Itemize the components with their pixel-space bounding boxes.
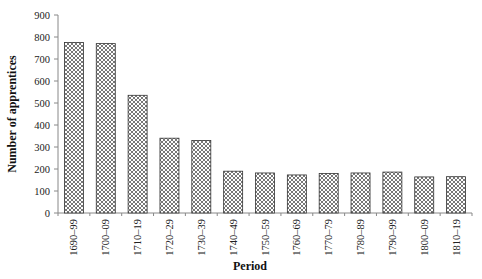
bar-chart: Number of apprentices 010020030040050060… xyxy=(0,0,482,279)
bar-1730–39 xyxy=(192,140,211,213)
x-tick-label: 1690–99 xyxy=(68,219,79,256)
x-axis-title: Period xyxy=(233,259,267,273)
bar-1770–79 xyxy=(319,173,338,213)
x-tick-label: 1700–09 xyxy=(100,219,111,256)
x-tick-label: 1740–49 xyxy=(228,219,239,256)
x-tick-label: 1720–29 xyxy=(164,219,175,256)
x-tick-label: 1790–99 xyxy=(387,219,398,256)
bar-1780–89 xyxy=(351,173,370,213)
bar-1710–19 xyxy=(128,95,147,213)
bar-1810–19 xyxy=(447,177,466,213)
bar-1760–69 xyxy=(287,175,306,213)
x-tick-label: 1780–89 xyxy=(355,219,366,256)
bar-1720–29 xyxy=(160,138,179,213)
y-tick-label: 200 xyxy=(34,164,50,175)
y-tick-label: 900 xyxy=(34,10,50,21)
x-tick-label: 1730–39 xyxy=(196,219,207,256)
bar-1700–09 xyxy=(96,44,115,213)
y-tick-label: 300 xyxy=(34,142,50,153)
x-tick-label: 1760–69 xyxy=(291,219,302,256)
y-tick-label: 600 xyxy=(34,76,50,87)
bar-1740–49 xyxy=(224,171,243,213)
x-tick-label: 1750–59 xyxy=(260,219,271,256)
y-axis-title: Number of apprentices xyxy=(5,55,19,173)
bar-1690–99 xyxy=(64,43,83,214)
bar-1790–99 xyxy=(383,172,402,213)
y-tick-label: 800 xyxy=(34,32,50,43)
y-tick-label: 400 xyxy=(34,120,50,131)
y-axis-title-group: Number of apprentices xyxy=(5,55,19,173)
y-tick-label: 700 xyxy=(34,54,50,65)
x-tick-label: 1810–19 xyxy=(451,219,462,256)
y-tick-label: 500 xyxy=(34,98,50,109)
bar-1750–59 xyxy=(256,173,275,213)
y-tick-label: 100 xyxy=(34,186,50,197)
bar-1800–09 xyxy=(415,177,434,213)
x-tick-label: 1800–09 xyxy=(419,219,430,256)
y-tick-label: 0 xyxy=(45,208,50,219)
x-tick-label: 1710–19 xyxy=(132,219,143,256)
x-tick-label: 1770–79 xyxy=(323,219,334,256)
bars xyxy=(64,43,465,214)
